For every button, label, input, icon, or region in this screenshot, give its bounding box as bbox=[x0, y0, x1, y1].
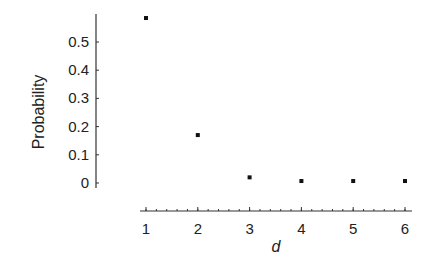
x-tick-label: 6 bbox=[401, 220, 409, 237]
data-point bbox=[351, 179, 355, 183]
x-tick-label: 4 bbox=[297, 220, 305, 237]
x-tick-label: 5 bbox=[349, 220, 357, 237]
y-tick-label: 0.4 bbox=[68, 61, 89, 78]
x-tick-label: 2 bbox=[194, 220, 202, 237]
x-tick-label: 3 bbox=[245, 220, 253, 237]
x-axis-title: d bbox=[272, 238, 282, 255]
data-point bbox=[144, 16, 148, 20]
y-tick-label: 0 bbox=[81, 174, 89, 191]
data-points bbox=[144, 16, 407, 183]
data-point bbox=[248, 175, 252, 179]
y-tick-label: 0.1 bbox=[68, 146, 89, 163]
y-tick-label: 0.5 bbox=[68, 33, 89, 50]
y-tick-label: 0.3 bbox=[68, 89, 89, 106]
x-tick-label: 1 bbox=[142, 220, 150, 237]
data-point bbox=[196, 133, 200, 137]
data-point bbox=[299, 179, 303, 183]
data-point bbox=[403, 179, 407, 183]
y-axis-title: Probability bbox=[30, 75, 47, 150]
y-tick-label: 0.2 bbox=[68, 118, 89, 135]
x-axis: 123456 bbox=[140, 207, 412, 237]
y-axis: 00.10.20.30.40.5 bbox=[68, 14, 99, 191]
scatter-chart: 00.10.20.30.40.5 123456 Probability d bbox=[0, 0, 431, 268]
